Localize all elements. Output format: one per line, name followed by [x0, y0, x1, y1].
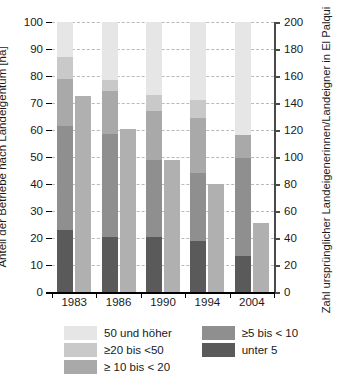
count-bar-1990[interactable]: [164, 160, 180, 292]
y-axis-left-tick: [46, 184, 52, 185]
bar-segment[interactable]: [235, 22, 251, 135]
y-axis-right-tick-label: 120: [284, 124, 303, 136]
y-axis-right-tick-label: 0: [284, 286, 290, 298]
y-axis-left-tick: [46, 211, 52, 212]
legend-label: 50 und höher: [104, 327, 172, 339]
y-axis-left-tick-label: 30: [30, 205, 43, 217]
legend-swatch-icon: [64, 343, 97, 357]
x-axis-label-2004: 2004: [239, 296, 265, 308]
x-axis-label-1986: 1986: [106, 296, 132, 308]
bar-segment[interactable]: [146, 95, 162, 111]
bar-group-2004: [230, 22, 274, 292]
legend-label: unter 5: [242, 344, 278, 356]
x-axis-label-1990: 1990: [150, 296, 176, 308]
bar-segment[interactable]: [190, 100, 206, 118]
bar-segment[interactable]: [235, 158, 251, 255]
y-axis-left-title: Anteil der Betriebe nach Landeigentum [h…: [0, 22, 10, 292]
bar-segment[interactable]: [146, 22, 162, 95]
bar-segment[interactable]: [146, 111, 162, 160]
x-axis-tick: [230, 292, 231, 298]
bar-segment[interactable]: [102, 91, 118, 134]
y-axis-left-tick: [46, 49, 52, 50]
count-bar-1983[interactable]: [75, 96, 91, 292]
bar-segment[interactable]: [235, 135, 251, 158]
stacked-bar-2004[interactable]: [235, 22, 251, 292]
x-axis-tick: [96, 292, 97, 298]
x-axis-line: [46, 292, 280, 294]
bar-segment[interactable]: [190, 22, 206, 100]
y-axis-left-tick: [46, 103, 52, 104]
count-bar-1986[interactable]: [120, 129, 136, 292]
legend-swatch-icon: [202, 326, 235, 340]
legend-column-right: ≥5 bis < 10unter 5: [202, 326, 314, 374]
y-axis-right-tick: [274, 157, 280, 159]
stacked-bar-1990[interactable]: [146, 22, 162, 292]
y-axis-left-tick: [46, 76, 52, 77]
bar-segment[interactable]: [102, 134, 118, 237]
y-axis-right-tick: [274, 130, 280, 132]
bar-segment[interactable]: [146, 160, 162, 237]
x-axis-label-1994: 1994: [195, 296, 221, 308]
y-axis-left-tick-label: 0: [37, 286, 43, 298]
stacked-bar-1983[interactable]: [57, 22, 73, 292]
legend-swatch-icon: [64, 360, 97, 374]
y-axis-right-tick-label: 80: [284, 178, 297, 190]
bar-segment[interactable]: [190, 173, 206, 241]
y-axis-right-tick: [274, 211, 280, 213]
bar-group-1994: [185, 22, 229, 292]
y-axis-left-title-text: Anteil der Betriebe nach Landeigentum [h…: [0, 46, 8, 267]
legend-label: ≥5 bis < 10: [242, 327, 299, 339]
bar-group-1990: [141, 22, 185, 292]
legend-item[interactable]: ≥5 bis < 10: [202, 326, 314, 340]
legend-item[interactable]: ≥20 bis <50: [64, 343, 188, 357]
x-axis-tick: [52, 292, 53, 298]
x-axis-tick: [141, 292, 142, 298]
legend-item[interactable]: unter 5: [202, 343, 314, 357]
x-axis-label-1983: 1983: [61, 296, 87, 308]
y-axis-left-tick: [46, 157, 52, 158]
y-axis-right-tick-label: 160: [284, 70, 303, 82]
count-bar-1994[interactable]: [208, 184, 224, 292]
y-axis-right-tick-label: 140: [284, 97, 303, 109]
legend-swatch-icon: [64, 326, 97, 340]
bar-segment[interactable]: [57, 57, 73, 79]
y-axis-right-tick: [274, 238, 280, 240]
y-axis-right-tick: [274, 103, 280, 105]
legend-item[interactable]: ≥ 10 bis < 20: [64, 360, 188, 374]
bar-segment[interactable]: [102, 80, 118, 91]
y-axis-right-tick: [274, 49, 280, 51]
y-axis-right-tick: [274, 265, 280, 267]
y-axis-left-tick-label: 70: [30, 97, 43, 109]
count-bar-2004[interactable]: [253, 223, 269, 292]
bar-segment[interactable]: [102, 22, 118, 80]
legend-item[interactable]: 50 und höher: [64, 326, 188, 340]
x-axis-tick: [185, 292, 186, 298]
bar-segment[interactable]: [57, 126, 73, 230]
plot-area: 0102030405060708090100 02040608010012014…: [52, 22, 274, 292]
bar-segment[interactable]: [235, 256, 251, 292]
y-axis-left-tick: [46, 130, 52, 131]
bar-segment[interactable]: [190, 241, 206, 292]
y-axis-left-tick-label: 20: [30, 232, 43, 244]
y-axis-right-tick-label: 40: [284, 232, 297, 244]
bar-segment[interactable]: [57, 79, 73, 126]
chart-container: Anteil der Betriebe nach Landeigentum [h…: [0, 0, 340, 382]
bar-segment[interactable]: [190, 118, 206, 173]
y-axis-left-tick: [46, 238, 52, 239]
y-axis-left-tick-label: 80: [30, 70, 43, 82]
y-axis-left-tick: [46, 265, 52, 266]
y-axis-right-title: Zahl ursprünglicher Landeigenerinnen/Lan…: [318, 10, 334, 310]
y-axis-left-tick-label: 50: [30, 151, 43, 163]
stacked-bar-1986[interactable]: [102, 22, 118, 292]
y-axis-left-tick-label: 100: [24, 16, 43, 28]
bar-group-1983: [52, 22, 96, 292]
y-axis-right-tick: [274, 76, 280, 78]
y-axis-right-tick-label: 100: [284, 151, 303, 163]
bar-segment[interactable]: [146, 237, 162, 292]
legend-label: ≥ 10 bis < 20: [104, 361, 170, 373]
bar-segment[interactable]: [102, 237, 118, 292]
bar-segment[interactable]: [57, 22, 73, 57]
bar-segment[interactable]: [57, 230, 73, 292]
bar-group-1986: [96, 22, 140, 292]
stacked-bar-1994[interactable]: [190, 22, 206, 292]
